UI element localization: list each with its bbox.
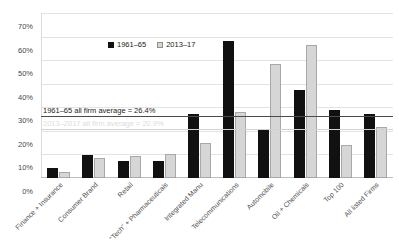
- x-axis-label-cell: Integrated Manu: [182, 179, 217, 250]
- x-axis-tick-label: Retail: [116, 181, 134, 199]
- bar: [94, 158, 105, 178]
- average-reference-line: [41, 116, 393, 117]
- legend-swatch-icon: [157, 42, 163, 48]
- bar-groups: [41, 13, 393, 178]
- x-axis-label-cell: Consumer Brand: [76, 179, 111, 250]
- bar-group: [252, 13, 287, 178]
- bar: [329, 110, 340, 178]
- bar: [376, 127, 387, 178]
- bar: [47, 168, 58, 178]
- legend-label: 1961–65: [117, 40, 146, 49]
- bar-group: [358, 13, 393, 178]
- bar: [165, 154, 176, 178]
- bar: [341, 145, 352, 178]
- x-axis-label-cell: All listed Firms: [358, 179, 393, 250]
- legend-swatch-icon: [108, 42, 114, 48]
- bar: [270, 64, 281, 178]
- bar-group: [76, 13, 111, 178]
- bar: [188, 114, 199, 178]
- bar: [200, 143, 211, 178]
- x-axis-label-cell: Top 100: [323, 179, 358, 250]
- y-axis-tick-label: 30%: [18, 116, 33, 125]
- plot-area: 1961–65 all firm average = 26.4%2013–201…: [41, 13, 393, 178]
- bar-group: [147, 13, 182, 178]
- x-axis-labels: Finance + InsuranceConsumer BrandRetail“…: [41, 179, 393, 250]
- bar: [59, 172, 70, 178]
- bar-group: [182, 13, 217, 178]
- legend-item[interactable]: 1961–65: [108, 40, 146, 49]
- bar: [153, 161, 164, 178]
- bar-group: [287, 13, 322, 178]
- legend-label: 2013–17: [166, 40, 195, 49]
- bar: [294, 90, 305, 178]
- legend-item[interactable]: 2013–17: [157, 40, 195, 49]
- bar: [364, 114, 375, 178]
- bar: [258, 130, 269, 178]
- y-axis: 70%60%50%40%30%20%10%0%: [0, 13, 36, 178]
- chart-legend: 1961–652013–17: [108, 40, 195, 49]
- bar: [223, 41, 234, 178]
- y-axis-tick-label: 10%: [18, 163, 33, 172]
- bar: [306, 45, 317, 178]
- x-axis-tick-label: Finance + Insurance: [14, 181, 64, 231]
- y-axis-tick-label: 70%: [18, 22, 33, 31]
- bar-group: [41, 13, 76, 178]
- y-axis-tick-label: 60%: [18, 45, 33, 54]
- average-reference-line: [41, 129, 393, 130]
- bar-group: [217, 13, 252, 178]
- x-axis-tick-label: Top 100: [323, 181, 346, 204]
- y-axis-tick-label: 50%: [18, 69, 33, 78]
- average-reference-label: 1961–65 all firm average = 26.4%: [43, 106, 155, 115]
- bar: [130, 156, 141, 178]
- chart-container: 70%60%50%40%30%20%10%0% 1961–65 all firm…: [0, 0, 399, 250]
- y-axis-tick-label: 20%: [18, 139, 33, 148]
- bar-group: [323, 13, 358, 178]
- y-axis-tick-label: 0%: [22, 187, 33, 196]
- x-axis-label-cell: Telecommunications: [217, 179, 252, 250]
- bar: [235, 112, 246, 178]
- bar-group: [111, 13, 146, 178]
- bar: [118, 161, 129, 178]
- bar: [82, 155, 93, 178]
- x-axis-label-cell: Oil + Chemicals: [287, 179, 322, 250]
- average-reference-label: 2013–2017 all firm average = 20.9%: [43, 119, 164, 128]
- y-axis-tick-label: 40%: [18, 92, 33, 101]
